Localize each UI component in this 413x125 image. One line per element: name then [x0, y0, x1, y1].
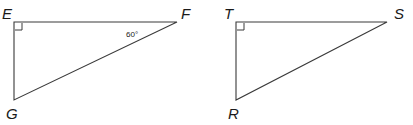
- geometry-figure: E F G 60° T S R: [0, 0, 413, 125]
- vertex-label-r: R: [228, 105, 239, 122]
- vertex-label-e: E: [2, 5, 13, 22]
- right-angle-marker-e: [15, 23, 22, 30]
- triangle-tsr: T S R: [224, 5, 404, 122]
- triangle-efg: E F G 60°: [2, 5, 191, 122]
- triangle-efg-outline: [14, 22, 177, 100]
- vertex-label-f: F: [181, 5, 191, 22]
- vertex-label-g: G: [6, 105, 18, 122]
- right-angle-marker-t: [237, 23, 244, 30]
- vertex-label-s: S: [394, 5, 404, 22]
- triangle-tsr-outline: [236, 22, 387, 100]
- vertex-label-t: T: [224, 5, 235, 22]
- angle-label-60-degrees: 60°: [126, 30, 138, 39]
